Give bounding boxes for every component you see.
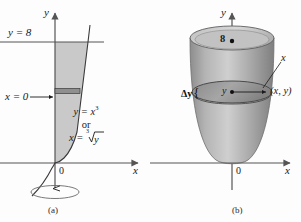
axis-label-x: x (133, 165, 138, 176)
caption-a: (a) (48, 205, 58, 215)
label-x-equals-0: x = 0 (5, 91, 28, 102)
origin-label: 0 (59, 166, 64, 176)
shaded-region (55, 42, 88, 163)
rotation-arrow-icon (53, 186, 60, 191)
height-point-dot (230, 39, 234, 43)
axis-label-y: y (44, 7, 49, 18)
curve-equation-cuberoot: x = 3 y (69, 131, 103, 144)
textbook-figure: y = 8 y x 0 x = 0 y = x3 or x = (0, 0, 301, 222)
curve-equation-block: y = x3 or x = 3 y (69, 104, 103, 144)
center-point-dot (230, 90, 234, 94)
label-delta-y: Δy{ (181, 85, 200, 101)
axis-label-y: y (221, 7, 226, 18)
origin-label: 0 (236, 166, 241, 176)
caption-b: (b) (232, 205, 243, 215)
delta-y-brace: { (193, 85, 199, 100)
label-center-y: y (222, 86, 226, 96)
label-radius-x: x (281, 53, 286, 64)
representative-strip (55, 89, 80, 94)
panel-b: y x 0 8 Δy{ y x (x, y) (b) (150, 0, 300, 222)
panel-b-graphics (150, 0, 301, 222)
curve-equation-cubic: y = x3 (69, 104, 103, 118)
radicand: y (94, 133, 99, 146)
panel-a: y = 8 y x 0 x = 0 y = x3 or x = (0, 0, 150, 222)
label-point-xy: (x, y) (270, 86, 292, 97)
label-height-8: 8 (220, 34, 225, 45)
axis-label-x: x (285, 165, 290, 176)
delta-y-text: Δy (181, 88, 192, 99)
cubic-exponent: 3 (95, 104, 98, 111)
label-y-equals-8: y = 8 (8, 27, 31, 38)
